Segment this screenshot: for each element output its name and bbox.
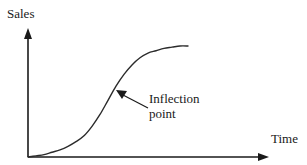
y-axis-arrowhead (24, 28, 32, 39)
y-axis-label: Sales (7, 7, 34, 20)
annotation-arrowhead (116, 90, 127, 99)
chart-canvas (0, 0, 307, 165)
annotation-line-1: Inflection (149, 91, 200, 106)
annotation-leader-line (123, 95, 148, 108)
inflection-point-annotation: Inflection point (149, 91, 200, 121)
sales-curve-figure: Sales Time Inflection point (0, 0, 307, 165)
x-axis-label: Time (271, 132, 298, 145)
x-axis-arrowhead (258, 153, 269, 161)
annotation-line-2: point (149, 106, 200, 121)
